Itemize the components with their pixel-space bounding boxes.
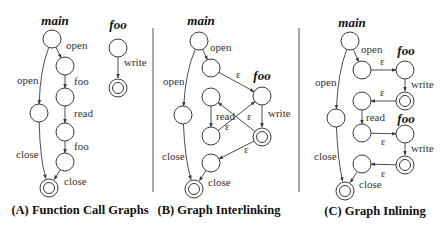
graph-name-label: foo bbox=[253, 68, 271, 83]
edge-label: open bbox=[163, 75, 185, 87]
state-node bbox=[396, 125, 414, 143]
panel-graph-interlinking: (B) Graph Interlinking openεreadεεεclose… bbox=[158, 13, 291, 217]
edge-b0-b3 bbox=[184, 49, 196, 106]
edge-label: foo bbox=[74, 140, 89, 152]
edge-label: open bbox=[361, 43, 383, 55]
state-node bbox=[109, 39, 127, 57]
edge-label: foo bbox=[74, 75, 89, 87]
edge-label: write bbox=[124, 56, 147, 68]
edge-label: open bbox=[17, 74, 39, 86]
edge-label: close bbox=[162, 150, 185, 162]
caption-b: (B) Graph Interlinking bbox=[158, 203, 282, 217]
final-state-inner-ring bbox=[44, 183, 55, 194]
state-node bbox=[30, 104, 48, 122]
edge-label: close bbox=[208, 176, 231, 188]
panel-graph-inlining: (C) Graph Inlining openεwriteεreadεwrite… bbox=[314, 15, 434, 218]
state-node bbox=[353, 155, 371, 173]
edge-label: read bbox=[366, 111, 385, 123]
edge-label: ε bbox=[225, 120, 230, 132]
edge-a3-a6 bbox=[39, 122, 46, 178]
state-node bbox=[396, 61, 414, 79]
graph-name-label: main bbox=[41, 13, 68, 28]
state-node bbox=[190, 32, 208, 50]
state-node bbox=[327, 109, 345, 127]
edge-label: write bbox=[411, 78, 434, 90]
edge-c0-c3 bbox=[336, 49, 346, 109]
edge-a0-a1 bbox=[56, 47, 61, 58]
state-node bbox=[353, 61, 371, 79]
state-node bbox=[56, 123, 74, 141]
edge-c4-k0 bbox=[371, 133, 396, 134]
edge-label: ε bbox=[380, 86, 385, 98]
state-node bbox=[341, 32, 359, 50]
state-node bbox=[202, 88, 220, 106]
state-node bbox=[253, 87, 271, 105]
edge-label: close bbox=[16, 148, 39, 160]
final-state-inner-ring bbox=[400, 96, 411, 107]
edge-a5-a6 bbox=[54, 170, 60, 180]
edge-label: ε bbox=[244, 143, 249, 155]
final-state-inner-ring bbox=[113, 83, 124, 94]
state-node bbox=[202, 154, 220, 172]
final-state-inner-ring bbox=[400, 160, 411, 171]
edge-a0-a3 bbox=[39, 47, 49, 104]
edge-label: ε bbox=[247, 110, 252, 122]
final-state-inner-ring bbox=[257, 132, 268, 143]
state-node bbox=[202, 59, 220, 77]
caption-a: (A) Function Call Graphs bbox=[11, 203, 148, 217]
edge-b5-b6 bbox=[199, 171, 206, 181]
edge-label: ε bbox=[381, 167, 386, 179]
edge-k1-c5 bbox=[371, 164, 396, 165]
state-node bbox=[202, 127, 220, 145]
edge-label: ε bbox=[380, 55, 385, 67]
edge-b0-b1 bbox=[203, 49, 208, 60]
edge-label: read bbox=[74, 107, 93, 119]
edge-label: write bbox=[411, 142, 434, 154]
edge-c0-c1 bbox=[353, 49, 358, 61]
state-node bbox=[56, 153, 74, 171]
state-node bbox=[353, 124, 371, 142]
edge-label: open bbox=[210, 41, 232, 53]
caption-c: (C) Graph Inlining bbox=[324, 204, 426, 218]
final-state-inner-ring bbox=[340, 186, 351, 197]
edge-label: close bbox=[359, 178, 382, 190]
panel-function-call-graphs: (A) Function Call Graphs openfooreadfooc… bbox=[11, 13, 148, 217]
state-node bbox=[56, 88, 74, 106]
edge-label: close bbox=[314, 150, 337, 162]
edge-g1-b5 bbox=[219, 141, 254, 159]
edge-label: open bbox=[315, 76, 337, 88]
graph-name-label: main bbox=[187, 13, 214, 28]
graph-name-label: foo bbox=[397, 111, 415, 126]
edge-label: open bbox=[66, 39, 88, 51]
edge-c3-c6 bbox=[336, 127, 342, 181]
edge-label: ε bbox=[236, 68, 241, 80]
state-node bbox=[174, 106, 192, 124]
graph-name-label: foo bbox=[397, 43, 415, 58]
graph-name-label: foo bbox=[109, 17, 127, 32]
state-node bbox=[353, 92, 371, 110]
edge-c5-c6 bbox=[350, 172, 357, 183]
edge-label: write bbox=[268, 107, 291, 119]
edge-label: ε bbox=[381, 135, 386, 147]
graph-diagram: (A) Function Call Graphs openfooreadfooc… bbox=[0, 0, 448, 227]
edge-label: close bbox=[64, 175, 87, 187]
state-node bbox=[43, 30, 61, 48]
graph-name-label: main bbox=[338, 15, 365, 30]
final-state-inner-ring bbox=[189, 184, 200, 195]
state-node bbox=[56, 57, 74, 75]
